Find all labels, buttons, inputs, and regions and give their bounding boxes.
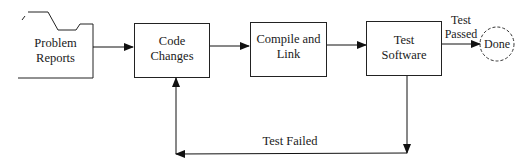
done-label: Done <box>480 37 514 52</box>
code-changes-label: Code Changes <box>134 34 210 64</box>
test-software-line1: Test <box>366 33 442 48</box>
code-changes-line1: Code <box>134 34 210 49</box>
compile-link-line2: Link <box>250 47 327 62</box>
test-software-line2: Software <box>366 48 442 63</box>
problem-reports-label: Problem Reports <box>18 36 93 66</box>
compile-link-line1: Compile and <box>250 32 327 47</box>
test-software-label: Test Software <box>366 33 442 63</box>
test-failed-label: Test Failed <box>240 134 340 149</box>
test-passed-line1: Test <box>441 13 481 27</box>
compile-link-label: Compile and Link <box>250 32 327 62</box>
problem-reports-line2: Reports <box>18 51 93 66</box>
test-passed-label: Test Passed <box>441 13 481 41</box>
code-changes-line2: Changes <box>134 49 210 64</box>
problem-reports-line1: Problem <box>18 36 93 51</box>
test-passed-line2: Passed <box>441 27 481 41</box>
